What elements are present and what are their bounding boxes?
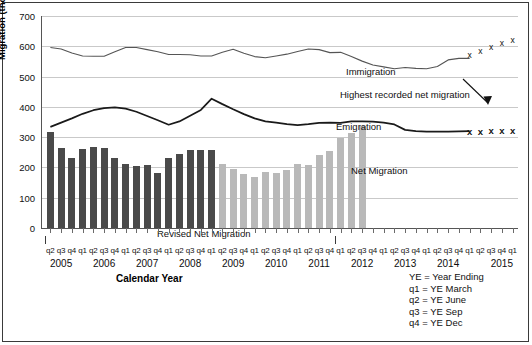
plot-area: xxxxx xxxxx Immigration Emigration Net M…	[41, 16, 518, 228]
y-axis-title: Migration (thousands)	[0, 0, 7, 60]
x-tick	[244, 228, 245, 233]
x-tick	[104, 228, 105, 233]
immigration-line	[50, 48, 469, 69]
projection-marker: x	[510, 125, 516, 136]
x-tick	[255, 228, 256, 233]
x-tick	[190, 228, 191, 233]
quarter-label: q2	[347, 246, 356, 255]
quarter-label: q1	[336, 246, 345, 255]
quarter-label: q2	[433, 246, 442, 255]
x-tick	[459, 228, 460, 233]
emigration-projection-markers: xxxxx	[467, 125, 516, 137]
x-tick	[222, 228, 223, 233]
x-tick	[61, 228, 62, 233]
y-tick-label: 100	[19, 192, 35, 203]
quarter-label: q1	[78, 246, 87, 255]
year-label: 2015	[491, 258, 513, 269]
y-tick-label: 400	[19, 101, 35, 112]
year-label: 2013	[394, 258, 416, 269]
x-tick	[179, 228, 180, 233]
x-tick	[502, 228, 503, 233]
x-tick	[416, 228, 417, 233]
x-tick	[341, 228, 342, 233]
x-tick	[394, 228, 395, 233]
key-line: q1 = YE March	[409, 283, 484, 295]
quarter-label: q3	[143, 246, 152, 255]
projection-marker: x	[478, 46, 483, 56]
projection-marker: x	[489, 42, 494, 52]
key-line: q4 = YE Dec	[409, 317, 484, 329]
quarter-label: q3	[444, 246, 453, 255]
y-tick-label: 200	[19, 162, 35, 173]
quarter-label: q3	[401, 246, 410, 255]
x-axis-year-labels: 2005200620072008200920102011201220132014…	[41, 258, 518, 272]
x-tick	[298, 228, 299, 233]
x-tick	[212, 228, 213, 233]
x-tick	[83, 228, 84, 233]
x-axis-title: Calendar Year	[116, 273, 183, 284]
quarter-label: q3	[315, 246, 324, 255]
quarter-label: q4	[154, 246, 163, 255]
chart-key: YE = Year Endingq1 = YE Marchq2 = YE Jun…	[409, 271, 484, 329]
quarter-label: q2	[175, 246, 184, 255]
x-tick	[169, 228, 170, 233]
projection-marker: x	[488, 125, 494, 136]
year-label: 2010	[265, 258, 287, 269]
year-label: 2008	[179, 258, 201, 269]
projection-marker: x	[468, 50, 473, 60]
x-tick	[373, 228, 374, 233]
x-tick	[136, 228, 137, 233]
x-tick	[265, 228, 266, 233]
quarter-label: q2	[218, 246, 227, 255]
quarter-label: q3	[272, 246, 281, 255]
immigration-projection-markers: xxxxx	[468, 35, 516, 60]
quarter-label: q1	[293, 246, 302, 255]
year-label: 2007	[136, 258, 158, 269]
quarter-label: q4	[412, 246, 421, 255]
annotation-highest-recorded: Highest recorded net migration	[340, 89, 470, 100]
quarter-label: q2	[89, 246, 98, 255]
x-tick	[158, 228, 159, 233]
quarter-label: q2	[46, 246, 55, 255]
quarter-label: q4	[326, 246, 335, 255]
quarter-label: q1	[250, 246, 259, 255]
year-label: 2006	[93, 258, 115, 269]
quarter-label: q4	[498, 246, 507, 255]
x-tick	[72, 228, 73, 233]
annotation-emigration: Emigration	[336, 121, 381, 132]
period-divider	[45, 236, 46, 244]
emigration-line	[50, 99, 469, 132]
x-tick	[351, 228, 352, 233]
x-tick	[147, 228, 148, 233]
quarter-label: q4	[111, 246, 120, 255]
x-tick	[308, 228, 309, 233]
key-line: q3 = YE Sep	[409, 306, 484, 318]
x-tick	[233, 228, 234, 233]
quarter-label: q1	[422, 246, 431, 255]
annotation-immigration: Immigration	[346, 66, 396, 77]
key-line: YE = Year Ending	[409, 271, 484, 283]
quarter-label: q3	[487, 246, 496, 255]
quarter-label: q3	[186, 246, 195, 255]
quarter-label: q1	[465, 246, 474, 255]
x-tick	[330, 228, 331, 233]
x-tick	[362, 228, 363, 233]
x-tick	[384, 228, 385, 233]
year-label: 2005	[50, 258, 72, 269]
projection-marker: x	[499, 125, 505, 136]
x-tick	[319, 228, 320, 233]
x-tick	[513, 228, 514, 233]
projection-marker: x	[500, 38, 505, 48]
y-tick-label: 700	[19, 11, 35, 22]
y-tick-label: 300	[19, 132, 35, 143]
year-label: 2011	[308, 258, 330, 269]
projection-marker: x	[511, 35, 516, 45]
x-axis-ticks	[41, 228, 518, 234]
quarter-label: q1	[508, 246, 517, 255]
quarter-label: q3	[57, 246, 66, 255]
year-label: 2012	[351, 258, 373, 269]
x-tick	[126, 228, 127, 233]
y-tick-label: 600	[19, 41, 35, 52]
x-tick	[405, 228, 406, 233]
quarter-label: q4	[68, 246, 77, 255]
